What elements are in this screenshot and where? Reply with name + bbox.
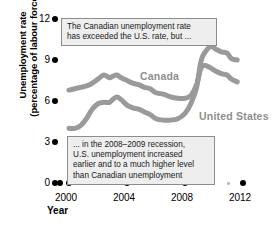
annotation-bottom-line-4: than Canadian unemployment (73, 171, 209, 181)
annotation-bottom-line-2: U.S. unemployment increased (73, 150, 209, 160)
annotation-bottom-line-3: earlier and to a much higher level (73, 160, 209, 170)
series-label-canada: Canada (140, 70, 179, 82)
series-label-united-states: United States (199, 110, 269, 122)
annotation-top-line-2: has exceeded the U.S. rate, but ... (67, 32, 211, 42)
annotation-bottom-line-1: ... in the 2008–2009 recession, (73, 140, 209, 150)
annotation-callout-bottom: ... in the 2008–2009 recession, U.S. une… (67, 136, 215, 185)
annotation-callout-top: The Canadian unemployment rate has excee… (61, 18, 217, 46)
annotation-top-line-1: The Canadian unemployment rate (67, 22, 211, 32)
unemployment-rate-chart: Unemployment rate (percentage of labour … (0, 0, 278, 229)
